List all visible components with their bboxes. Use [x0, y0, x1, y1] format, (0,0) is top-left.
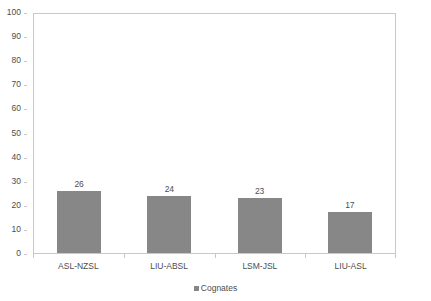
x-axis-tick-mark: [215, 254, 216, 258]
y-axis-tick-label: 50: [12, 128, 21, 138]
y-axis-tick-mark: [24, 254, 27, 255]
x-axis-category-label: LIU-ABSL: [124, 260, 215, 274]
y-axis: 1009080706050403020100: [0, 13, 27, 254]
x-axis-tick-mark: [305, 254, 306, 258]
chart-legend: Cognates: [0, 281, 431, 295]
legend-swatch-icon: [194, 286, 199, 291]
y-axis-tick-label: 70: [12, 79, 21, 89]
legend-item[interactable]: Cognates: [194, 283, 237, 293]
y-axis-tick-mark: [24, 134, 27, 135]
y-axis-tick-label: 20: [12, 200, 21, 210]
y-axis-tick-mark: [24, 85, 27, 86]
bar-group: 24: [124, 14, 214, 253]
y-axis-tick-mark: [24, 13, 27, 14]
bar[interactable]: [328, 212, 372, 253]
y-axis-tick-label: 60: [12, 103, 21, 113]
y-axis-tick-label: 90: [12, 31, 21, 41]
bar-group: 26: [34, 14, 124, 253]
y-axis-tick-mark: [24, 158, 27, 159]
x-axis-tick-mark: [124, 254, 125, 258]
y-axis-tick-label: 40: [12, 152, 21, 162]
y-axis-tick-label: 10: [12, 224, 21, 234]
bar-value-label: 26: [74, 179, 83, 189]
x-axis-tick-mark: [395, 254, 396, 258]
bar-group: 17: [305, 14, 395, 253]
bar-value-label: 23: [255, 186, 264, 196]
legend-item-label: Cognates: [201, 283, 237, 293]
y-axis-tick-mark: [24, 182, 27, 183]
bar[interactable]: [57, 191, 101, 253]
bar-group: 23: [215, 14, 305, 253]
bar-value-label: 17: [345, 200, 354, 210]
y-axis-tick-label: 0: [16, 248, 21, 258]
y-axis-tick-label: 100: [7, 7, 21, 17]
y-axis-tick-mark: [24, 206, 27, 207]
y-axis-tick-mark: [24, 37, 27, 38]
bar[interactable]: [238, 198, 282, 253]
x-axis-labels: ASL-NZSLLIU-ABSLLSM-JSLLIU-ASL: [33, 260, 396, 274]
y-axis-tick-mark: [24, 61, 27, 62]
x-axis-category-label: ASL-NZSL: [33, 260, 124, 274]
x-axis-ticks: [33, 254, 396, 259]
x-axis-category-label: LSM-JSL: [215, 260, 306, 274]
x-axis-category-label: LIU-ASL: [305, 260, 396, 274]
bars-container: 26242317: [34, 14, 395, 253]
y-axis-tick-label: 80: [12, 55, 21, 65]
y-axis-tick-label: 30: [12, 176, 21, 186]
x-axis-tick-mark: [33, 254, 34, 258]
y-axis-tick-mark: [24, 230, 27, 231]
bar[interactable]: [147, 196, 191, 253]
bar-value-label: 24: [165, 184, 174, 194]
bar-chart: 1009080706050403020100 26242317 ASL-NZSL…: [0, 0, 431, 301]
y-axis-tick-mark: [24, 109, 27, 110]
